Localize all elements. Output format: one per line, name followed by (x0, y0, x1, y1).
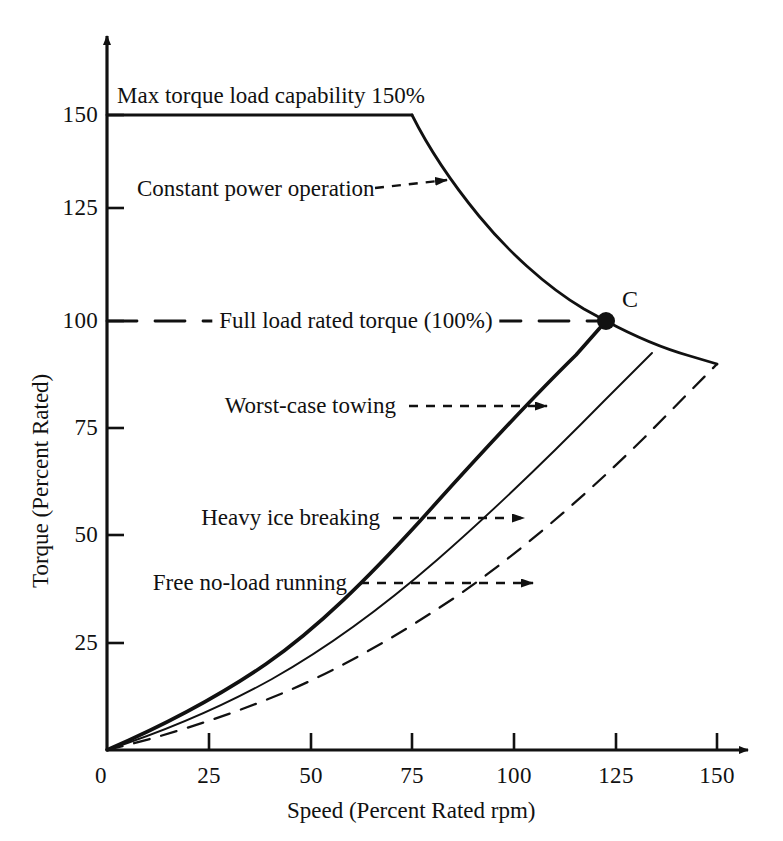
full-load-rated-torque-label: Full load rated torque (100%) (212, 308, 499, 334)
x-tick-label-0: 0 (95, 763, 107, 789)
worst-case-towing-label: Worst-case towing (225, 393, 396, 419)
x-axis-title: Speed (Percent Rated rpm) (287, 798, 535, 824)
series-curves (107, 115, 717, 750)
constant-power-arrow (375, 180, 447, 188)
heavy-ice-breaking-label: Heavy ice breaking (201, 505, 380, 531)
y-tick-marks (107, 115, 124, 643)
x-tick-label-50: 50 (299, 763, 323, 789)
chart-plot-area (0, 0, 783, 841)
y-axis-title: Torque (Percent Rated) (28, 374, 54, 588)
x-tick-label-75: 75 (400, 763, 424, 789)
y-tick-label-125: 125 (36, 195, 98, 221)
y-tick-label-25: 25 (36, 630, 98, 656)
x-tick-label-100: 100 (496, 763, 531, 789)
y-tick-label-150: 150 (36, 102, 98, 128)
point-c-label: C (622, 286, 638, 313)
data-point-markers (597, 312, 615, 330)
constant-power-operation-label: Constant power operation (137, 176, 375, 202)
point-c-marker (597, 312, 615, 330)
max-torque-capability-label: Max torque load capability 150% (117, 83, 425, 109)
x-tick-marks (209, 733, 717, 750)
y-tick-label-100: 100 (36, 308, 98, 334)
annotation-arrows (360, 180, 547, 583)
x-tick-label-150: 150 (699, 763, 734, 789)
free-no-load-running-label: Free no-load running (153, 570, 347, 596)
series-free-no-load-running (107, 364, 717, 750)
series-worst-case-towing (107, 321, 606, 750)
torque-speed-chart: 150 125 100 75 50 25 0 25 50 75 100 125 … (0, 0, 783, 841)
x-tick-label-125: 125 (598, 763, 633, 789)
x-tick-label-25: 25 (197, 763, 221, 789)
